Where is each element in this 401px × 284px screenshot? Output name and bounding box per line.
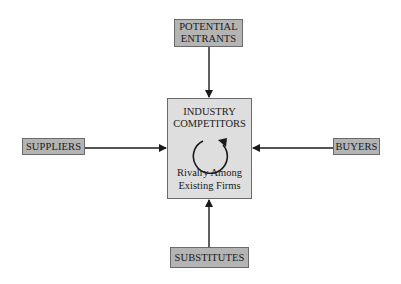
buyers-box: BUYERS (333, 138, 380, 155)
industry-sub-2: Existing Firms (168, 179, 251, 192)
suppliers-label: SUPPLIERS (26, 141, 81, 153)
industry-title-2: COMPETITORS (173, 118, 246, 130)
suppliers-box: SUPPLIERS (22, 138, 85, 155)
industry-competitors-box: INDUSTRY COMPETITORS Rivalry Among Exist… (167, 98, 252, 199)
potential-entrants-label-1: POTENTIAL (179, 21, 238, 33)
industry-title-1: INDUSTRY (173, 106, 246, 118)
buyers-label: BUYERS (335, 141, 377, 153)
substitutes-label: SUBSTITUTES (175, 252, 245, 264)
substitutes-box: SUBSTITUTES (170, 247, 249, 268)
potential-entrants-label-2: ENTRANTS (181, 33, 237, 45)
industry-sub-1: Rivalry Among (168, 166, 251, 179)
potential-entrants-box: POTENTIAL ENTRANTS (174, 19, 243, 47)
